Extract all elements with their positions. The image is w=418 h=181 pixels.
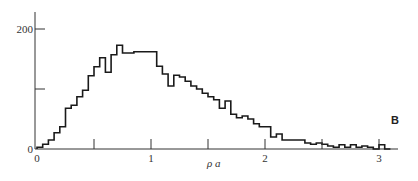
histogram-chart: 0123 0200 ρ a B <box>0 0 418 181</box>
x-tick-label: 0 <box>34 152 40 164</box>
x-axis-label: ρ a <box>206 157 221 169</box>
histogram-step-line <box>37 45 390 149</box>
panel-label: B <box>391 114 399 126</box>
y-axis-ticks: 0200 <box>17 23 46 155</box>
axes <box>35 12 398 149</box>
x-tick-label: 3 <box>376 152 382 164</box>
y-tick-label: 0 <box>28 143 34 155</box>
y-tick-label: 200 <box>17 23 34 35</box>
x-tick-label: 2 <box>262 152 268 164</box>
x-tick-label: 1 <box>148 152 154 164</box>
